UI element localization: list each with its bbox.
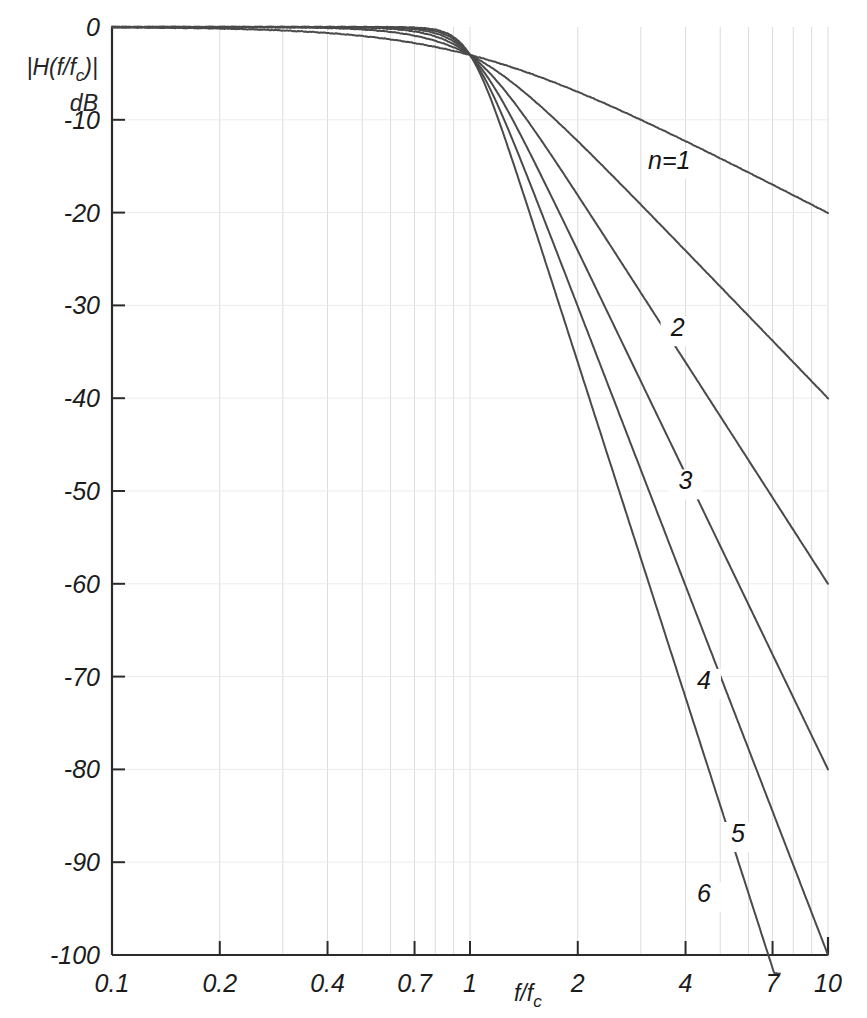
butterworth-response-plot: 0-10-20-30-40-50-60-70-80-90-1000.10.20.…: [0, 0, 867, 1018]
curve-label-2: 2: [670, 313, 685, 341]
curve-label-6: 6: [697, 879, 711, 907]
y-axis-tick-label: -30: [64, 291, 100, 319]
x-axis-tick-label: 4: [679, 969, 693, 997]
y-axis-tick-label: -20: [64, 199, 100, 227]
x-axis-tick-label: 0.4: [310, 969, 345, 997]
y-axis-tick-label: -80: [64, 755, 100, 783]
curve-label-5: 5: [731, 819, 745, 847]
y-axis-tick-label: -70: [64, 663, 100, 691]
x-axis-tick-label: 7: [766, 969, 781, 997]
y-axis-tick-label: -100: [50, 941, 100, 969]
curve-label-3: 3: [679, 466, 693, 494]
x-axis-tick-label: 0.2: [202, 969, 237, 997]
curve-label-1: n=1: [648, 146, 690, 174]
chart-figure: 0-10-20-30-40-50-60-70-80-90-1000.10.20.…: [0, 0, 867, 1018]
x-axis-tick-label: 0.7: [397, 969, 433, 997]
grid-layer: [112, 27, 828, 955]
y-axis-tick-label: -60: [64, 570, 100, 598]
y-axis-tick-label: -50: [64, 477, 100, 505]
x-axis-tick-label: 0.1: [95, 969, 130, 997]
y-axis-tick-label: 0: [86, 13, 100, 41]
curve-label-4: 4: [697, 666, 711, 694]
x-axis-tick-label: 2: [570, 969, 585, 997]
x-axis-tick-label: 10: [814, 969, 842, 997]
y-axis-tick-label: -40: [64, 384, 100, 412]
plot-background: [0, 0, 867, 1018]
x-axis-tick-label: 1: [463, 969, 477, 997]
y-axis-title-line2: dB: [70, 90, 98, 116]
y-axis-tick-label: -90: [64, 848, 100, 876]
